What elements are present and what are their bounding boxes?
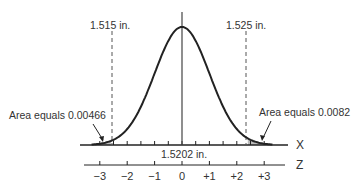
mean-label: 1.5202 in. (161, 148, 207, 160)
z-tick-label: +2 (231, 170, 244, 182)
upper-area-arrow (263, 121, 271, 138)
z-tick-label: −3 (94, 170, 107, 182)
x-axis-label: X (296, 138, 304, 152)
z-tick-label: 0 (179, 170, 185, 182)
z-tick-label: −1 (148, 170, 161, 182)
normal-distribution-chart: X −3−2−10+1+2+3 Z 1.515 in. 1.525 in. 1.… (0, 0, 359, 189)
z-axis-label: Z (296, 158, 303, 172)
lower-limit-label: 1.515 in. (90, 19, 130, 31)
z-tick-label: +3 (258, 170, 271, 182)
z-axis-ticks: −3−2−10+1+2+3 (94, 161, 271, 182)
upper-limit-label: 1.525 in. (226, 19, 266, 31)
z-tick-label: +1 (203, 170, 216, 182)
z-tick-label: −2 (121, 170, 134, 182)
lower-area-label: Area equals 0.00466 (9, 109, 106, 121)
upper-area-label: Area equals 0.0082 (259, 106, 350, 118)
upper-arrow-head (260, 135, 265, 141)
